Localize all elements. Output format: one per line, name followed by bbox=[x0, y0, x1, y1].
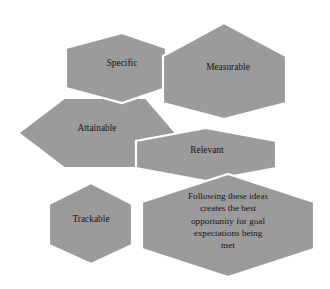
hexagon-measurable[interactable] bbox=[163, 23, 286, 119]
hexagon-trackable[interactable] bbox=[49, 183, 132, 264]
smart-goals-diagram: Specific Measurable Attainable Relevant … bbox=[0, 0, 330, 289]
hexagon-shapes-layer bbox=[0, 0, 330, 289]
hexagon-summary[interactable] bbox=[142, 174, 314, 277]
hexagon-specific[interactable] bbox=[66, 33, 166, 103]
